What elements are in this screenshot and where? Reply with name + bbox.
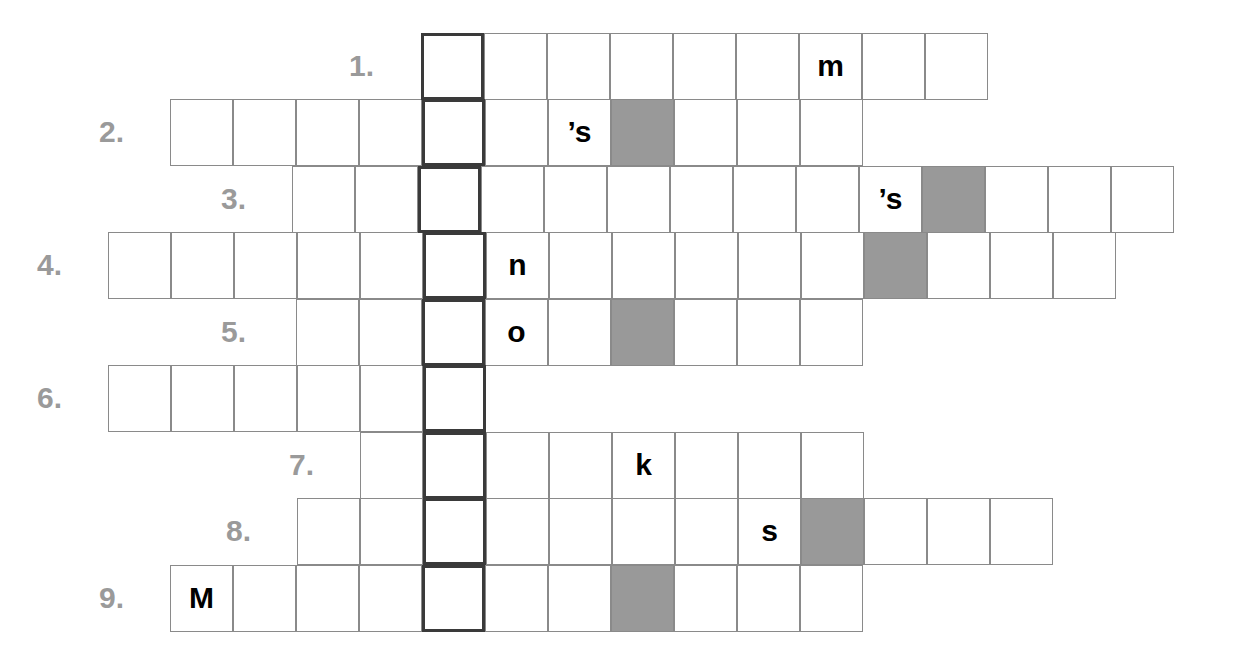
- shaded-cell[interactable]: [864, 232, 927, 299]
- letter-cell[interactable]: ’s: [548, 99, 611, 166]
- key-cell-row-7[interactable]: [423, 432, 486, 499]
- letter-cell[interactable]: [1048, 166, 1111, 233]
- letter-cell[interactable]: [549, 498, 612, 565]
- letter-cell[interactable]: [297, 232, 360, 299]
- key-cell-row-9[interactable]: [422, 565, 485, 632]
- letter-cell[interactable]: [234, 365, 297, 432]
- letter-cell[interactable]: [548, 565, 611, 632]
- letter-cell[interactable]: [800, 565, 863, 632]
- letter-cell[interactable]: [292, 166, 355, 233]
- letter-cell[interactable]: [990, 232, 1053, 299]
- letter-cell[interactable]: [360, 232, 423, 299]
- letter-cell[interactable]: n: [486, 232, 549, 299]
- letter-cell[interactable]: [549, 232, 612, 299]
- shaded-cell[interactable]: [922, 166, 985, 233]
- letter-cell[interactable]: [360, 498, 423, 565]
- key-cell-row-4[interactable]: [423, 232, 486, 299]
- letter-cell[interactable]: [674, 99, 737, 166]
- letter-cell[interactable]: [801, 432, 864, 499]
- key-cell-row-6[interactable]: [423, 365, 486, 432]
- key-cell-row-3[interactable]: [418, 166, 481, 233]
- letter-cell[interactable]: [673, 33, 736, 100]
- clue-number-7: 7.: [254, 432, 314, 499]
- letter-cell[interactable]: [548, 299, 611, 366]
- shaded-cell[interactable]: [611, 565, 674, 632]
- letter-cell[interactable]: [547, 33, 610, 100]
- clue-number-4: 4.: [2, 232, 62, 299]
- letter-cell[interactable]: [733, 166, 796, 233]
- letter-cell[interactable]: [736, 33, 799, 100]
- letter-cell[interactable]: [990, 498, 1053, 565]
- letter-cell[interactable]: [485, 99, 548, 166]
- letter-cell[interactable]: [927, 232, 990, 299]
- letter-cell[interactable]: [171, 365, 234, 432]
- letter-cell[interactable]: [800, 299, 863, 366]
- letter-cell[interactable]: [675, 498, 738, 565]
- letter-cell[interactable]: [675, 432, 738, 499]
- key-cell-row-5[interactable]: [422, 299, 485, 366]
- cell-letter: ’s: [879, 184, 903, 214]
- letter-cell[interactable]: [234, 232, 297, 299]
- letter-cell[interactable]: [233, 565, 296, 632]
- letter-cell[interactable]: [359, 99, 422, 166]
- letter-cell[interactable]: [171, 232, 234, 299]
- letter-cell[interactable]: k: [612, 432, 675, 499]
- letter-cell[interactable]: [927, 498, 990, 565]
- letter-cell[interactable]: [675, 232, 738, 299]
- letter-cell[interactable]: [484, 33, 547, 100]
- letter-cell[interactable]: [360, 432, 423, 499]
- letter-cell[interactable]: [985, 166, 1048, 233]
- letter-cell[interactable]: [549, 432, 612, 499]
- letter-cell[interactable]: [674, 299, 737, 366]
- shaded-cell[interactable]: [611, 299, 674, 366]
- letter-cell[interactable]: [486, 432, 549, 499]
- letter-cell[interactable]: [1111, 166, 1174, 233]
- letter-cell[interactable]: [738, 232, 801, 299]
- letter-cell[interactable]: [607, 166, 670, 233]
- letter-cell[interactable]: [297, 498, 360, 565]
- letter-cell[interactable]: [359, 299, 422, 366]
- letter-cell[interactable]: [674, 565, 737, 632]
- letter-cell[interactable]: [359, 565, 422, 632]
- letter-cell[interactable]: [738, 432, 801, 499]
- key-cell-row-8[interactable]: [423, 498, 486, 565]
- letter-cell[interactable]: [670, 166, 733, 233]
- letter-cell[interactable]: [486, 498, 549, 565]
- letter-cell[interactable]: m: [799, 33, 862, 100]
- shaded-cell[interactable]: [801, 498, 864, 565]
- letter-cell[interactable]: o: [485, 299, 548, 366]
- letter-cell[interactable]: [864, 498, 927, 565]
- letter-cell[interactable]: M: [170, 565, 233, 632]
- letter-cell[interactable]: [108, 232, 171, 299]
- letter-cell[interactable]: [925, 33, 988, 100]
- shaded-cell[interactable]: [611, 99, 674, 166]
- letter-cell[interactable]: [737, 99, 800, 166]
- letter-cell[interactable]: [108, 365, 171, 432]
- letter-cell[interactable]: [297, 365, 360, 432]
- key-cell-row-1[interactable]: [421, 33, 484, 100]
- letter-cell[interactable]: [737, 565, 800, 632]
- clue-number-6: 6.: [2, 365, 62, 432]
- letter-cell[interactable]: [737, 299, 800, 366]
- letter-cell[interactable]: [355, 166, 418, 233]
- letter-cell[interactable]: [612, 498, 675, 565]
- letter-cell[interactable]: [170, 99, 233, 166]
- letter-cell[interactable]: [360, 365, 423, 432]
- letter-cell[interactable]: [800, 99, 863, 166]
- letter-cell[interactable]: s: [738, 498, 801, 565]
- letter-cell[interactable]: [233, 99, 296, 166]
- letter-cell[interactable]: [296, 299, 359, 366]
- letter-cell[interactable]: [544, 166, 607, 233]
- letter-cell[interactable]: [862, 33, 925, 100]
- key-cell-row-2[interactable]: [422, 99, 485, 166]
- letter-cell[interactable]: [801, 232, 864, 299]
- letter-cell[interactable]: [1053, 232, 1116, 299]
- letter-cell[interactable]: [485, 565, 548, 632]
- letter-cell[interactable]: [796, 166, 859, 233]
- letter-cell[interactable]: [296, 565, 359, 632]
- letter-cell[interactable]: [296, 99, 359, 166]
- letter-cell[interactable]: [481, 166, 544, 233]
- letter-cell[interactable]: [612, 232, 675, 299]
- letter-cell[interactable]: [610, 33, 673, 100]
- letter-cell[interactable]: ’s: [859, 166, 922, 233]
